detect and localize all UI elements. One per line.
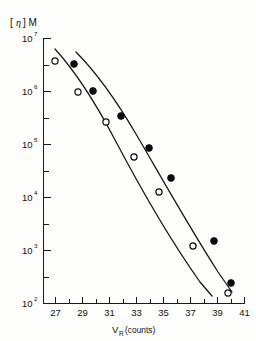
y-label-base-1e6: 10	[22, 86, 33, 97]
x-label-41: 41	[239, 307, 250, 318]
chart-canvas: 10 7 10 6 10 5 10 4 10 3 10 2	[0, 0, 256, 341]
data-point-open-4	[131, 154, 137, 160]
data-point-open-1	[52, 58, 58, 64]
y-axis-tick-labels: 10 7 10 6 10 5 10 4 10 3 10 2	[22, 30, 38, 309]
y-label-exp-1e5: 5	[34, 136, 38, 143]
y-axis-title-suffix: ] M	[23, 17, 37, 28]
data-series-filled-circles	[71, 61, 235, 287]
data-point-filled-5	[168, 175, 175, 182]
data-point-filled-4	[146, 145, 153, 152]
y-axis-title-eta-symbol: η	[16, 17, 21, 28]
data-point-filled-1	[71, 61, 78, 68]
x-axis-title-main: V	[112, 324, 119, 335]
data-point-filled-3	[118, 113, 125, 120]
x-axis-minor-ticks	[69, 299, 231, 304]
data-point-filled-2	[90, 88, 97, 95]
y-label-base-1e3: 10	[22, 245, 33, 256]
y-label-base-1e7: 10	[22, 33, 33, 44]
data-series-open-circles	[52, 58, 231, 296]
x-label-33: 33	[131, 307, 142, 318]
upper-curve-filled-series	[76, 52, 232, 292]
data-point-open-5	[156, 189, 162, 195]
y-label-exp-1e4: 4	[34, 189, 38, 196]
x-axis-title-unit: (counts)	[125, 325, 155, 335]
y-axis-title-bracket-open: [	[10, 17, 13, 28]
y-label-exp-1e6: 6	[34, 83, 38, 90]
x-axis-title: V R (counts)	[112, 324, 155, 337]
x-label-35: 35	[158, 307, 169, 318]
x-label-37: 37	[185, 307, 196, 318]
x-axis-title-subscript: R	[119, 330, 124, 337]
y-label-exp-1e3: 3	[34, 242, 38, 249]
x-label-39: 39	[212, 307, 223, 318]
y-label-exp-1e2: 2	[34, 295, 38, 302]
y-label-base-1e2: 10	[22, 298, 33, 309]
data-point-open-2	[75, 89, 81, 95]
x-label-29: 29	[77, 307, 88, 318]
figure-container: 10 7 10 6 10 5 10 4 10 3 10 2	[0, 0, 256, 341]
data-point-open-7	[225, 290, 231, 296]
data-point-open-3	[103, 119, 109, 125]
data-point-filled-6	[211, 238, 218, 245]
y-label-exp-1e7: 7	[34, 30, 38, 37]
y-label-base-1e5: 10	[22, 139, 33, 150]
y-axis-minor-ticks	[44, 65, 49, 277]
lower-curve-open-series	[55, 49, 212, 296]
y-label-base-1e4: 10	[22, 192, 33, 203]
data-point-open-6	[190, 243, 196, 249]
x-label-31: 31	[104, 307, 115, 318]
x-axis-tick-labels: 27 29 31 33 35 37 39 41	[50, 307, 250, 318]
y-axis-title: [ η ] M	[10, 17, 37, 28]
x-label-27: 27	[50, 307, 61, 318]
data-point-filled-7	[228, 280, 235, 287]
